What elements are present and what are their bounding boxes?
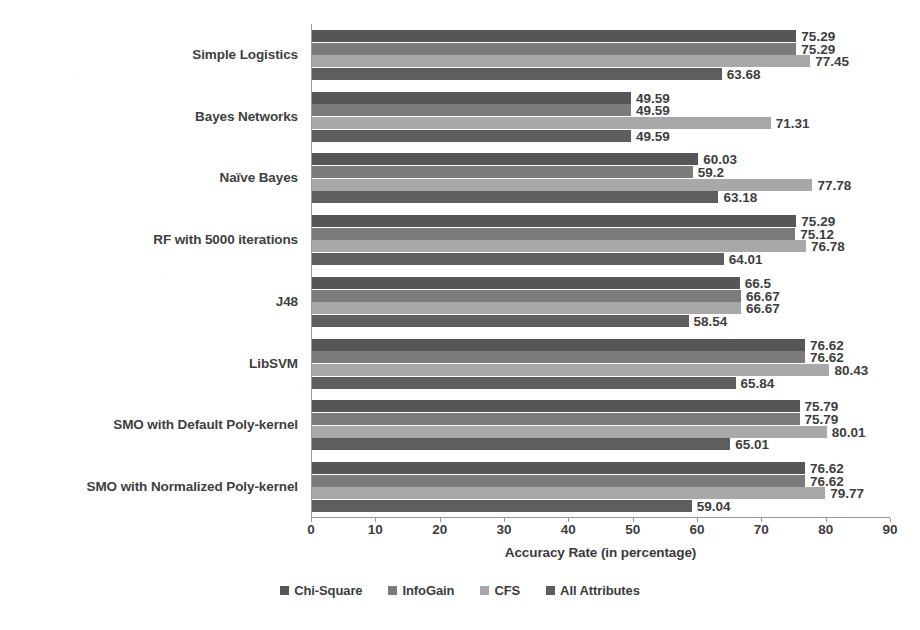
chart-legend: Chi-SquareInfoGainCFSAll Attributes [0, 583, 920, 598]
bar [312, 475, 805, 487]
bar [312, 215, 796, 227]
x-axis-tick-label: 20 [432, 522, 447, 537]
legend-label: All Attributes [560, 583, 640, 598]
bar [312, 68, 722, 80]
bar [312, 290, 741, 302]
bar [312, 315, 689, 327]
bar [312, 500, 692, 512]
legend-label: InfoGain [402, 583, 454, 598]
bar [312, 130, 631, 142]
category-label: Simple Logistics [0, 47, 298, 63]
bar [312, 487, 825, 499]
bar-value-label: 64.01 [729, 254, 763, 266]
bar-value-label: 77.45 [815, 56, 849, 68]
bar [312, 240, 806, 252]
legend-label: Chi-Square [294, 583, 362, 598]
bar-value-label: 49.59 [636, 131, 670, 143]
bar-value-label: 65.01 [735, 439, 769, 451]
bar-value-label: 49.59 [636, 105, 670, 117]
x-axis-tick-labels: 0102030405060708090 [311, 522, 890, 544]
bar [312, 377, 736, 389]
bar-value-label: 65.84 [741, 378, 775, 390]
legend-item[interactable]: InfoGain [388, 583, 454, 598]
bar [312, 426, 827, 438]
x-axis-tick-label: 30 [496, 522, 511, 537]
x-axis-tick-label: 60 [689, 522, 704, 537]
x-axis-tick-label: 90 [882, 522, 897, 537]
bar-value-label: 58.54 [694, 316, 728, 328]
category-label: SMO with Default Poly-kernel [0, 417, 298, 433]
category-label: SMO with Normalized Poly-kernel [0, 479, 298, 495]
bar [312, 302, 741, 314]
bar [312, 166, 693, 178]
bar [312, 400, 800, 412]
bar-value-label: 59.04 [697, 501, 731, 513]
bar [312, 413, 800, 425]
category-label: RF with 5000 iterations [0, 232, 298, 248]
legend-item[interactable]: All Attributes [546, 583, 640, 598]
category-label: Naïve Bayes [0, 170, 298, 186]
bar-value-label: 76.78 [811, 241, 845, 253]
bar-value-label: 80.01 [832, 427, 866, 439]
bar-value-label: 59.2 [698, 167, 724, 179]
bar-value-label: 77.78 [817, 180, 851, 192]
category-label: LibSVM [0, 356, 298, 372]
bar-value-label: 79.77 [830, 488, 864, 500]
category-label: Bayes Networks [0, 109, 298, 125]
legend-swatch-icon [480, 586, 489, 595]
x-axis-tick-label: 50 [625, 522, 640, 537]
x-axis-tick-label: 70 [754, 522, 769, 537]
bar-value-label: 66.67 [746, 303, 780, 315]
bar [312, 277, 740, 289]
bar [312, 92, 631, 104]
bar [312, 228, 795, 240]
legend-swatch-icon [546, 586, 555, 595]
bar [312, 364, 829, 376]
legend-swatch-icon [388, 586, 397, 595]
bar [312, 153, 698, 165]
bar [312, 117, 771, 129]
plot-area: 75.2975.2977.4563.6849.5949.5971.3149.59… [311, 24, 890, 518]
bar-value-label: 63.68 [727, 69, 761, 81]
bar-value-label: 63.18 [723, 192, 757, 204]
legend-item[interactable]: CFS [480, 583, 520, 598]
legend-item[interactable]: Chi-Square [280, 583, 362, 598]
x-axis-tick-label: 0 [307, 522, 315, 537]
bar [312, 351, 805, 363]
legend-label: CFS [494, 583, 520, 598]
bar [312, 339, 805, 351]
bar [312, 179, 812, 191]
legend-swatch-icon [280, 586, 289, 595]
accuracy-rate-bar-chart: Simple LogisticsBayes NetworksNaïve Baye… [0, 0, 920, 630]
category-label: J48 [0, 294, 298, 310]
x-axis-title: Accuracy Rate (in percentage) [311, 545, 890, 560]
x-axis-tick-label: 40 [561, 522, 576, 537]
bar [312, 43, 796, 55]
bar [312, 253, 724, 265]
bar-value-label: 71.31 [776, 118, 810, 130]
bar [312, 104, 631, 116]
bar [312, 191, 718, 203]
bar [312, 438, 730, 450]
x-axis-tick-label: 80 [818, 522, 833, 537]
x-axis-tick-label: 10 [368, 522, 383, 537]
bar [312, 30, 796, 42]
bar-value-label: 80.43 [834, 365, 868, 377]
x-axis-line [311, 517, 890, 518]
bar [312, 462, 805, 474]
bar [312, 55, 810, 67]
